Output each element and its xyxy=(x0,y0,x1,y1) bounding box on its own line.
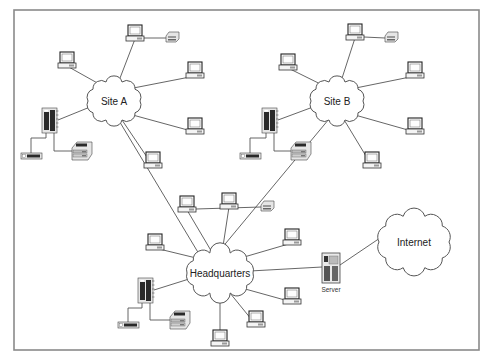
server[interactable]: Server xyxy=(321,253,341,293)
link-server-to-internet xyxy=(340,238,380,265)
site-b-workstation-2-icon[interactable] xyxy=(346,24,364,40)
headquarters-workstation-4-icon[interactable] xyxy=(283,229,301,245)
site-a-workstation-3-icon[interactable] xyxy=(186,62,204,78)
site-b-laser-printer-icon[interactable] xyxy=(291,142,311,160)
link-headquarters-modem xyxy=(128,303,142,322)
site-a-workstation-1-icon[interactable] xyxy=(58,52,76,68)
internet-label: Internet xyxy=(397,237,431,248)
site-b-tower-computer-icon[interactable] xyxy=(262,108,279,133)
link-site-a-tower xyxy=(58,107,90,120)
link-headquarters-tower xyxy=(154,279,189,290)
site-b-label: Site B xyxy=(324,96,351,107)
link-site-b-tower xyxy=(278,107,313,120)
headquarters-workstation-2-icon[interactable] xyxy=(178,196,196,212)
headquarters-modem-icon[interactable] xyxy=(118,322,139,328)
headquarters-label: Headquarters xyxy=(190,268,251,279)
site-a-label: Site A xyxy=(101,96,127,107)
link-headquarters-laser-printer xyxy=(150,303,170,320)
link-headquarters-to-server xyxy=(250,267,322,271)
link-site-b-modem xyxy=(250,133,266,153)
site-a-printer-icon[interactable] xyxy=(166,32,179,42)
cloud-headquarters[interactable]: Headquarters xyxy=(187,243,254,303)
headquarters-laser-printer-icon[interactable] xyxy=(170,311,190,329)
headquarters-tower-computer-icon[interactable] xyxy=(138,278,155,303)
site-a-laser-printer-icon[interactable] xyxy=(72,142,92,160)
cloud-internet[interactable]: Internet xyxy=(378,208,451,276)
link-site-b-to-headquarters xyxy=(216,119,329,255)
link-site-a-laser-printer xyxy=(54,133,72,151)
headquarters-printer-icon[interactable] xyxy=(261,201,274,211)
cloud-site-a[interactable]: Site A xyxy=(87,76,141,126)
link-site-b-printer xyxy=(364,37,385,38)
site-b-workstation-4-icon[interactable] xyxy=(406,118,424,134)
headquarters-workstation-1-icon[interactable] xyxy=(146,234,164,250)
site-a-workstation-5-icon[interactable] xyxy=(144,152,162,168)
headquarters-workstation-5-icon[interactable] xyxy=(283,288,301,304)
site-a-tower-computer-icon[interactable] xyxy=(42,108,59,133)
cloud-site-b[interactable]: Site B xyxy=(310,76,364,126)
site-b-modem-icon[interactable] xyxy=(240,153,261,159)
headquarters-workstation-7-icon[interactable] xyxy=(211,330,229,346)
link-site-a-modem xyxy=(31,133,46,153)
site-a-modem-icon[interactable] xyxy=(21,153,42,159)
site-b-workstation-3-icon[interactable] xyxy=(406,62,424,78)
headquarters-workstation-6-icon[interactable] xyxy=(247,311,265,327)
site-b-workstation-1-icon[interactable] xyxy=(279,54,297,70)
diagram-frame xyxy=(14,10,479,350)
network-diagram: Site ASite BHeadquartersInternet Server xyxy=(0,0,491,361)
site-a-workstation-4-icon[interactable] xyxy=(186,118,204,134)
site-b-printer-icon[interactable] xyxy=(385,32,398,42)
site-a-workstation-2-icon[interactable] xyxy=(126,25,144,41)
server-label: Server xyxy=(321,286,341,293)
headquarters-workstation-3-icon[interactable] xyxy=(220,193,238,209)
link-site-b-laser-printer xyxy=(274,133,291,151)
site-b-workstation-5-icon[interactable] xyxy=(363,152,381,168)
